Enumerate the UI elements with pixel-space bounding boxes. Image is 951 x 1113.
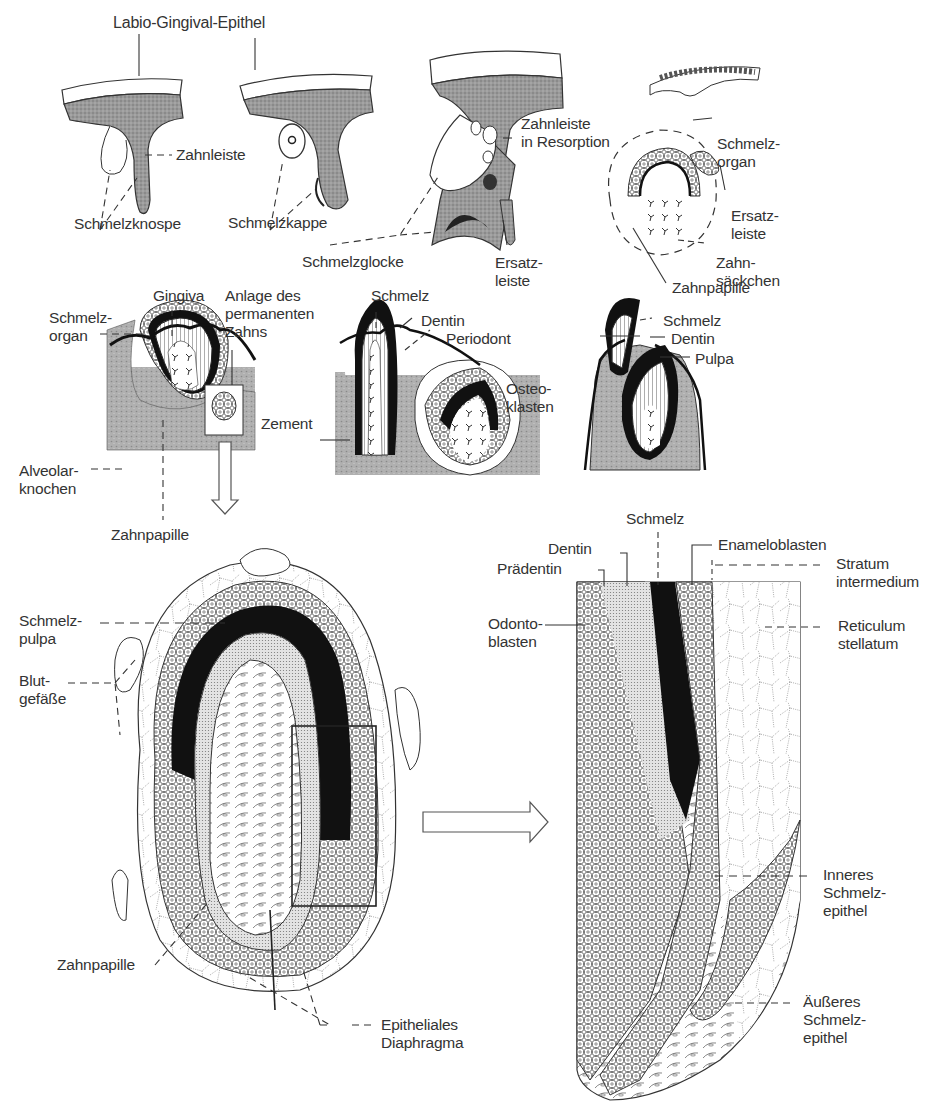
label-schmelzorgan-section: Schmelz- organ	[717, 135, 780, 171]
histology-detail-drawing	[577, 582, 800, 1100]
label-schmelz-detail: Schmelz	[626, 510, 684, 528]
label-schmelzknospe: Schmelzknospe	[74, 215, 181, 233]
label-osteoklasten: Osteo- klasten	[506, 380, 554, 416]
label-ersatzleiste-bell: Ersatz- leiste	[495, 254, 543, 290]
label-ersatzleiste-section: Ersatz- leiste	[731, 207, 779, 243]
label-schmelzorgan-crown: Schmelz- organ	[49, 309, 112, 345]
arrow-right	[423, 802, 548, 842]
label-schmelz-eruption: Schmelz	[371, 287, 429, 305]
label-schmelz-replacement: Schmelz	[663, 312, 721, 330]
label-dentin-detail: Dentin	[548, 540, 592, 558]
tooth-development-diagram	[0, 0, 951, 1113]
label-periodont: Periodont	[446, 330, 511, 348]
label-enameloblasten: Enameloblasten	[718, 536, 826, 554]
label-schmelzpulpa: Schmelz- pulpa	[19, 612, 82, 648]
label-zahnpapille-overview: Zahnpapille	[57, 956, 135, 974]
label-zahnleiste: Zahnleiste	[176, 146, 246, 164]
label-alveolarknochen: Alveolar- knochen	[19, 462, 78, 498]
label-zahnpapille-section: Zahnpapille	[672, 279, 750, 297]
arrow-down	[212, 442, 238, 514]
label-dentin-replacement: Dentin	[671, 330, 715, 348]
label-aeusseres-schmelzepithel: Äußeres Schmelz- epithel	[803, 993, 866, 1047]
label-anlage-permanent: Anlage des permanenten Zahns	[225, 287, 314, 341]
label-zahnpapille-crown: Zahnpapille	[111, 526, 189, 544]
stage-cap-drawing	[240, 38, 373, 209]
label-reticulum-stellatum: Reticulum stellatum	[838, 617, 905, 653]
label-stratum-intermedium: Stratum intermedium	[836, 555, 919, 591]
label-schmelzkappe: Schmelzkappe	[228, 214, 327, 232]
label-gingiva: Gingiva	[153, 287, 204, 305]
label-dentin-eruption: Dentin	[421, 312, 465, 330]
label-pulpa: Pulpa	[695, 350, 734, 368]
label-praedentin: Prädentin	[497, 560, 562, 578]
label-odontoblasten: Odonto- blasten	[488, 615, 543, 651]
label-zement: Zement	[261, 415, 312, 433]
label-zahnleiste-in-resorption: Zahnleiste in Resorption	[521, 115, 610, 151]
histology-overview-drawing	[112, 549, 420, 1010]
stage-bud-drawing	[62, 34, 183, 214]
label-epitheliales-diaphragma: Epitheliales Diaphragma	[381, 1016, 463, 1052]
label-schmelzglocke: Schmelzglocke	[302, 253, 404, 271]
label-blutgefaesse: Blut- gefäße	[19, 672, 66, 708]
label-labio-gingival-epithel: Labio-Gingival-Epithel	[113, 14, 265, 32]
label-inneres-schmelzepithel: Inneres Schmelz- epithel	[823, 866, 886, 920]
